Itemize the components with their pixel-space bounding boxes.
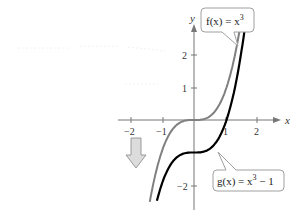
- y-tick-neg2: −2: [177, 181, 188, 192]
- g-label: g(x) = x3 − 1: [217, 173, 274, 188]
- f-label: f(x) = x3: [206, 13, 244, 28]
- y-tick-2: 2: [182, 50, 187, 61]
- g-label-callout: g(x) = x3 − 1: [213, 152, 284, 191]
- x-tick-neg1: −1: [156, 126, 167, 137]
- y-axis: y 2 1 −2: [177, 12, 197, 210]
- chart-canvas: x −2 −1 1 2 y 2 1 −2 f(x) = x3: [0, 0, 301, 216]
- x-axis-label: x: [284, 114, 290, 126]
- y-axis-arrow-icon: [191, 24, 197, 32]
- shift-down-arrow-icon: [126, 138, 146, 168]
- y-axis-label: y: [189, 12, 195, 24]
- f-label-callout: f(x) = x3: [201, 8, 254, 46]
- x-tick-2: 2: [254, 126, 259, 137]
- x-axis-arrow-icon: [273, 117, 281, 123]
- x-axis: x −2 −1 1 2: [118, 114, 290, 137]
- y-tick-1: 1: [182, 83, 187, 94]
- faint-artifacts: [18, 46, 165, 84]
- x-tick-neg2: −2: [124, 126, 135, 137]
